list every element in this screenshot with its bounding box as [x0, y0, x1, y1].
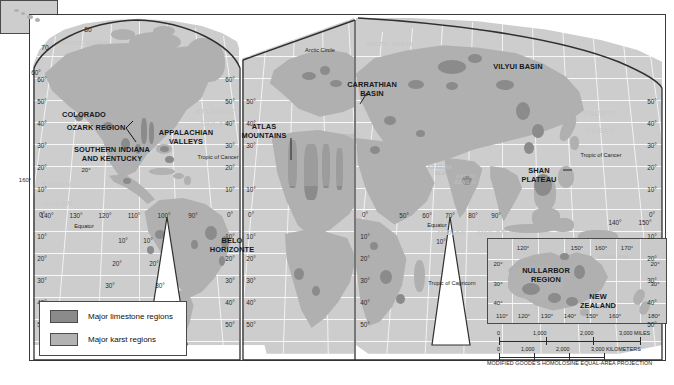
eurafrica-geography-left: [242, 18, 354, 355]
legend-label-limestone: Major limestone regions: [88, 312, 173, 321]
scale-miles-1000: 1,000: [533, 330, 547, 336]
scale-miles-0: 0: [497, 330, 500, 336]
legend-item-limestone: Major limestone regions: [50, 310, 173, 323]
projection-note: MODIFIED GOODE'S HOMOLOSINE EQUAL-AREA P…: [487, 360, 652, 366]
scale-miles-2000: 2,000: [580, 330, 594, 336]
scale-miles-3000: 3,000 MILES: [619, 330, 650, 336]
legend-label-karst: Major karst regions: [88, 335, 156, 344]
legend-item-karst: Major karst regions: [50, 333, 156, 346]
map-legend: Major limestone regions Major karst regi…: [39, 301, 187, 356]
legend-swatch-karst: [50, 333, 78, 346]
scale-km-2000: 2,000: [556, 346, 570, 352]
scale-km-1000: 1,000: [521, 346, 535, 352]
lobe-eurafrica: [242, 18, 354, 355]
scale-km-3000: 3,000 KILOMETERS: [591, 346, 641, 352]
map-figure: Major limestone regions Major karst regi…: [0, 0, 674, 385]
australia-inset: [487, 238, 667, 324]
scale-km-0: 0: [497, 346, 500, 352]
legend-swatch-limestone: [50, 310, 78, 323]
